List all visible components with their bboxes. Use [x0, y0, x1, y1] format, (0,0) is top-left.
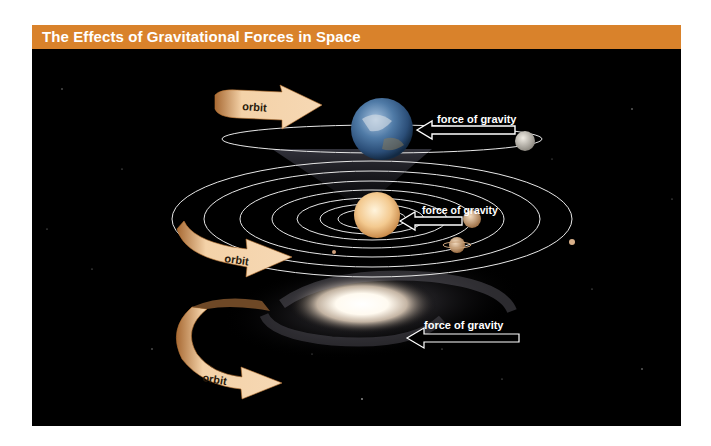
- orbit-label-earth: orbit: [242, 100, 268, 114]
- moon: [515, 131, 535, 151]
- planet-ringed: [449, 237, 465, 253]
- gravity-arrow-galaxy: force of gravity: [407, 319, 519, 348]
- diagram-panel: The Effects of Gravitational Forces in S…: [32, 25, 681, 426]
- planet-outer: [569, 239, 575, 245]
- planet-tiny: [332, 250, 336, 254]
- sun: [354, 192, 400, 238]
- force-label-solar: force of gravity: [422, 204, 498, 216]
- force-label-galaxy: force of gravity: [424, 319, 504, 331]
- gravity-arrow-earth: force of gravity: [417, 113, 517, 139]
- orbit-arrow-earth: orbit: [215, 85, 322, 129]
- space-scene: orbit force of gravity orbit force of gr…: [32, 49, 681, 426]
- force-label-earth: force of gravity: [437, 113, 517, 125]
- orbit-label-solar: orbit: [224, 252, 250, 267]
- orbit-arrow-solar: orbit: [177, 221, 292, 277]
- gravity-arrow-solar: force of gravity: [400, 204, 498, 230]
- header-bar: The Effects of Gravitational Forces in S…: [32, 25, 681, 49]
- diagram-title: The Effects of Gravitational Forces in S…: [42, 28, 361, 45]
